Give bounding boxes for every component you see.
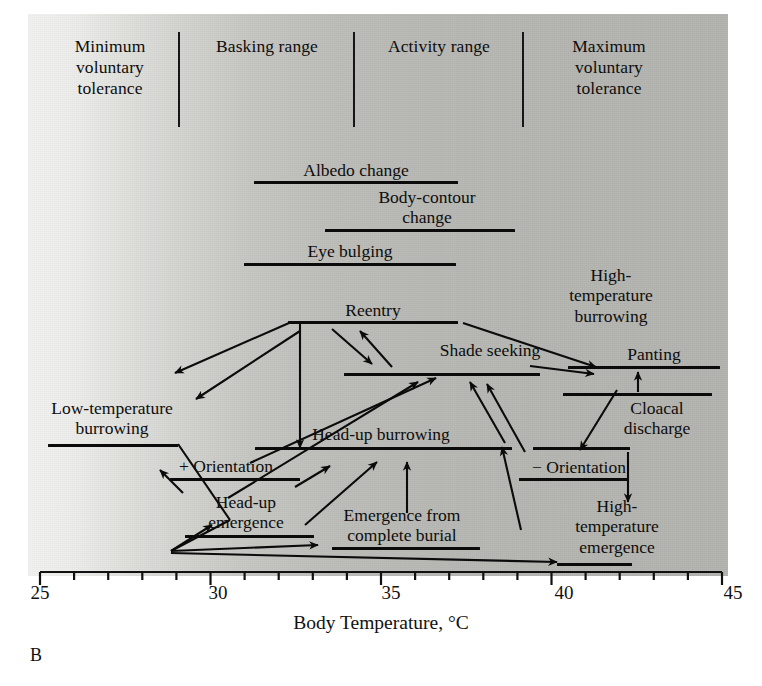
behavior-bar-low-temperature-burrowing [48,444,178,447]
axis-tick-40: 40 [534,582,594,604]
behavior-label-cloacal-discharge: Cloacal discharge [591,398,723,439]
behavior-bar-shade-seeking [344,373,540,376]
behavior-label-shade-seeking: Shade seeking [400,340,580,360]
behavior-bar-eye-bulging [244,263,456,266]
behavior-label-body-contour-change: Body-contour change [327,187,527,228]
behavior-bar-high-temperature-burrowing [533,447,630,450]
behavior-bar-albedo-change [254,181,458,184]
behavior-label-emergence-from-complete-burial: Emergence from complete burial [302,505,502,546]
behavior-label-reentry: Reentry [288,300,458,320]
panel-caption: B [30,645,42,666]
behavior-bar-reentry [288,321,458,324]
behavior-bar-plus-orientation [170,478,300,481]
behavior-label-head-up-burrowing: Head-up burrowing [276,424,486,444]
behavior-bar-head-up-burrowing [255,447,512,450]
behavior-bar-body-contour-change [325,229,515,232]
behavior-label-panting: Panting [594,344,714,364]
behavior-label-albedo-change: Albedo change [256,160,456,180]
x-axis-title: Body Temperature, °C [0,612,762,634]
axis-tick-35: 35 [361,582,421,604]
behavior-label-high-temperature-emergence: High- temperature emergence [552,496,682,557]
axis-tick-30: 30 [188,582,248,604]
behavior-bar-emergence-from-complete-burial [332,547,480,550]
behavior-bar-panting [568,366,720,369]
axis-tick-45: 45 [703,582,762,604]
behavior-label-minus-orientation: − Orientation [509,457,649,477]
behavior-bar-minus-orientation [519,478,629,481]
behavior-label-high-temperature-burrowing: High- temperature burrowing [540,265,682,326]
behavior-label-low-temperature-burrowing: Low-temperature burrowing [22,398,202,439]
axis-tick-25: 25 [10,582,70,604]
behavior-bar-cloacal-discharge [563,393,712,396]
behavior-bar-head-up-emergence [185,535,314,538]
thermoregulation-diagram: Minimum voluntary tolerance Basking rang… [0,0,762,686]
behavior-bar-high-temperature-emergence [557,563,632,566]
behavior-label-plus-orientation: + Orientation [146,456,306,476]
behavior-label-eye-bulging: Eye bulging [245,241,455,261]
behavior-label-head-up-emergence: Head-up emergence [182,492,310,533]
